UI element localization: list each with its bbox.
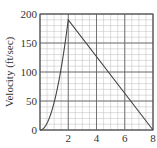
x-tick-label: 4: [94, 132, 100, 144]
y-tick-label: 0: [32, 124, 38, 136]
y-tick-label: 100: [21, 66, 38, 78]
y-tick-labels: 050100150200: [21, 8, 38, 136]
y-axis-label: Velocity (ft/sec): [3, 36, 16, 107]
y-tick-label: 200: [21, 8, 38, 20]
x-tick-label: 6: [122, 132, 128, 144]
y-tick-label: 150: [21, 37, 38, 49]
x-tick-label: 2: [66, 132, 72, 144]
y-tick-label: 50: [26, 95, 38, 107]
x-tick-label: 8: [150, 132, 156, 144]
x-tick-labels: 2468: [66, 132, 157, 144]
velocity-chart: 050100150200 2468 Velocity (ft/sec): [0, 0, 157, 148]
